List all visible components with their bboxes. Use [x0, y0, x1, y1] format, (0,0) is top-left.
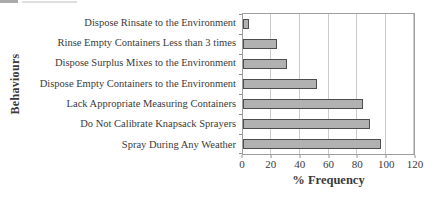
y-tick-mark	[239, 54, 242, 55]
category-label: Dispose Surplus Mixes to the Environment	[0, 54, 236, 74]
scan-artifact	[0, 0, 18, 3]
x-tick-label: 100	[378, 159, 395, 170]
y-tick-mark	[239, 134, 242, 135]
bar	[243, 139, 381, 149]
x-tick-label: 40	[294, 159, 305, 170]
bar-row	[243, 134, 414, 154]
y-tick-mark	[239, 153, 242, 154]
category-label: Do Not Calibrate Knapsack Sprayers	[0, 114, 236, 134]
x-axis-ticks: 020406080100120	[242, 155, 415, 171]
bar	[243, 79, 317, 89]
category-label: Lack Appropriate Measuring Containers	[0, 94, 236, 114]
y-tick-mark	[239, 14, 242, 15]
x-axis-title: % Frequency	[242, 173, 415, 188]
bar-row	[243, 74, 414, 94]
bar	[243, 39, 277, 49]
y-tick-mark	[239, 114, 242, 115]
x-tick-label: 80	[352, 159, 363, 170]
bar	[243, 59, 287, 69]
bar-row	[243, 14, 414, 34]
bar-row	[243, 94, 414, 114]
bar	[243, 119, 370, 129]
bar	[243, 99, 363, 109]
scan-artifact	[22, 1, 77, 3]
x-tick-label: 0	[239, 159, 245, 170]
bar-row	[243, 54, 414, 74]
x-tick-label: 20	[265, 159, 276, 170]
bar-chart: Behaviours Dispose Rinsate to the Enviro…	[0, 0, 442, 198]
bar	[243, 19, 249, 29]
category-label: Dispose Empty Containers to the Environm…	[0, 74, 236, 94]
category-axis-labels: Dispose Rinsate to the EnvironmentRinse …	[0, 13, 236, 155]
x-tick-label: 120	[407, 159, 424, 170]
y-tick-mark	[239, 74, 242, 75]
category-label: Spray During Any Weather	[0, 135, 236, 155]
y-tick-mark	[239, 94, 242, 95]
y-tick-mark	[239, 34, 242, 35]
x-tick-label: 60	[323, 159, 334, 170]
plot-area	[242, 13, 415, 155]
bar-row	[243, 34, 414, 54]
bar-row	[243, 114, 414, 134]
category-label: Rinse Empty Containers Less than 3 times	[0, 33, 236, 53]
category-label: Dispose Rinsate to the Environment	[0, 13, 236, 33]
